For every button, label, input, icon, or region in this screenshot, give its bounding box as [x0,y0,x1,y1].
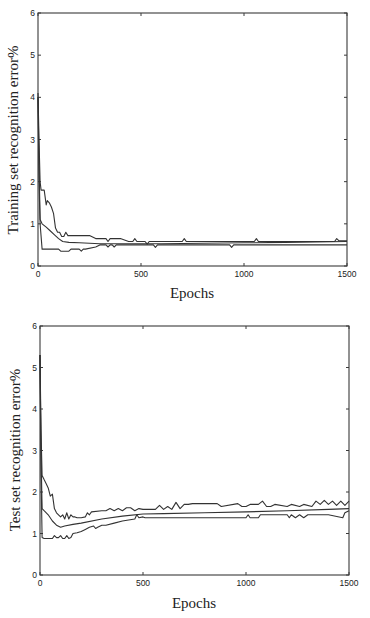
y-tick-label: 0 [30,261,35,271]
plot-frame [38,13,347,266]
x-tick-label: 1500 [340,578,359,588]
axis-ticks: 0500100015000123456 [32,321,358,588]
y-tick-label: 2 [30,177,35,187]
y-tick-label: 4 [30,92,35,102]
y-tick-label: 6 [30,8,35,18]
x-tick-label: 1500 [338,269,357,279]
axis-ticks: 0500100015000123456 [30,8,356,279]
series-lower-line [40,355,349,538]
y-tick-label: 2 [32,487,37,497]
y-tick-label: 1 [32,529,37,539]
curves [40,355,349,538]
y-tick-label: 6 [32,321,37,331]
y-tick-label: 1 [30,219,35,229]
x-tick-label: 500 [134,269,148,279]
y-tick-label: 3 [32,446,37,456]
y-tick-label: 5 [30,50,35,60]
series-upper-line [38,93,347,244]
y-tick-label: 3 [30,135,35,145]
y-tick-label: 5 [32,363,37,373]
series-lower-line [38,97,347,251]
series-mean-line [38,97,347,243]
x-tick-label: 0 [36,269,41,279]
y-tick-label: 4 [32,404,37,414]
figure: 0500100015000123456 Epochs Training set … [0,0,370,618]
x-tick-label: 500 [136,578,150,588]
x-tick-label: 1000 [237,578,256,588]
x-axis-label: Epochs [172,595,216,611]
y-axis-label: Training set recognition error% [5,46,21,235]
y-axis-label: Test set recognition error% [7,369,23,532]
series-mean-line [40,355,349,527]
x-axis-label: Epochs [170,285,214,301]
y-tick-label: 0 [32,570,37,580]
x-tick-label: 1000 [235,269,254,279]
training-error-chart: 0500100015000123456 Epochs Training set … [5,8,357,301]
series-upper-line [40,355,349,519]
x-tick-label: 0 [38,578,43,588]
curves [38,93,347,251]
test-error-chart: 0500100015000123456 Epochs Test set reco… [7,321,359,611]
plot-frame [40,326,349,575]
